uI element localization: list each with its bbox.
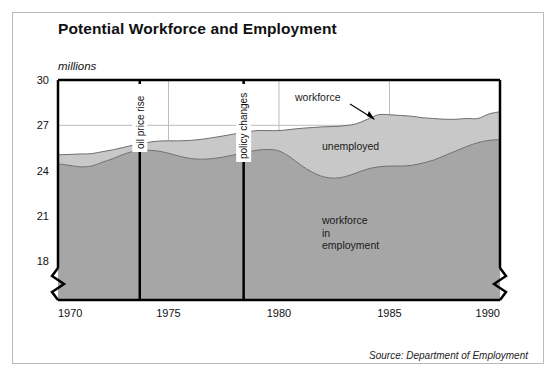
x-tick-label-1970: 1970 (58, 307, 82, 319)
annotation-workforce-in-employment-line-0: workforce (321, 214, 368, 226)
y-tick-label-27: 27 (37, 119, 49, 131)
annotation-workforce-in-employment-line-1: in (322, 227, 330, 239)
x-tick-label-1975: 1975 (156, 307, 180, 319)
event-label-policy-changes: policy changes (238, 93, 249, 159)
band-workforce-in-employment (58, 140, 500, 300)
area-chart: oil price risepolicy changes 18212427301… (0, 0, 558, 378)
y-tick-label-18: 18 (37, 255, 49, 267)
annotation-workforce-label: workforce (294, 91, 341, 103)
y-tick-label-24: 24 (37, 165, 49, 177)
annotation-unemployed-label: unemployed (322, 140, 379, 152)
x-tick-label-1980: 1980 (267, 307, 291, 319)
annotation-workforce-in-employment-line-2: employment (322, 239, 379, 251)
event-label-oil-price-rise: oil price rise (135, 95, 146, 149)
x-tick-label-1985: 1985 (377, 307, 401, 319)
figure-page: Potential Workforce and Employment milli… (0, 0, 558, 378)
y-tick-label-21: 21 (37, 210, 49, 222)
x-tick-label-1990: 1990 (476, 307, 500, 319)
y-tick-label-30: 30 (37, 74, 49, 86)
